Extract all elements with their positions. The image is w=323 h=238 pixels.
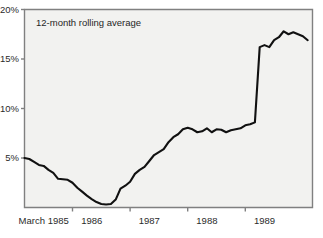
x-tick-label: 1987 [139, 215, 160, 226]
x-tick-label: 1989 [254, 215, 275, 226]
y-tick-label: 20% [0, 4, 20, 15]
line-chart: 5%10%15%20% March 19851986198719881989 1… [0, 0, 323, 238]
plot-area-background [25, 10, 313, 208]
x-tick-label: 1988 [196, 215, 217, 226]
chart-figure: 5%10%15%20% March 19851986198719881989 1… [0, 0, 323, 238]
x-axis-tick-labels: March 19851986198719881989 [19, 215, 275, 226]
x-tick-label: March 1985 [19, 215, 69, 226]
rolling-average-annotation: 12-month rolling average [36, 17, 141, 28]
x-tick-label: 1986 [81, 215, 102, 226]
y-axis-tick-labels: 5%10%15%20% [0, 4, 20, 164]
y-tick-label: 15% [0, 53, 20, 64]
y-tick-label: 5% [5, 152, 19, 163]
y-tick-label: 10% [0, 103, 20, 114]
